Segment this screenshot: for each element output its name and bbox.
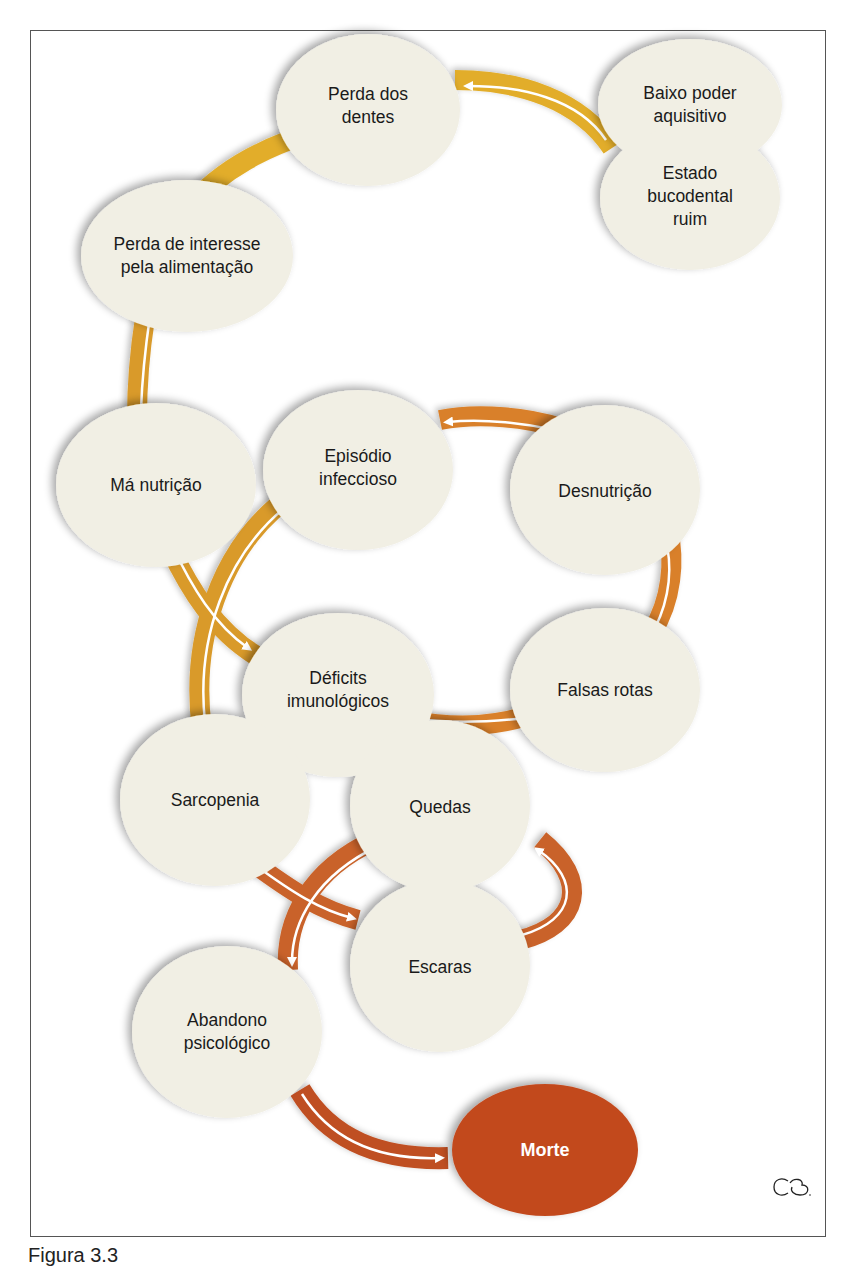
label-perda-dentes: Perda dos dentes [288, 78, 448, 134]
figure-caption: Figura 3.3 [28, 1244, 118, 1267]
label-morte: Morte [465, 1135, 625, 1165]
label-estado-bucodental: Estado bucodental ruim [610, 150, 770, 242]
label-escaras: Escaras [360, 952, 520, 982]
label-baixo-poder: Baixo poder aquisitivo [610, 70, 770, 140]
label-desnutricao: Desnutrição [525, 476, 685, 506]
label-falsas-rotas: Falsas rotas [525, 675, 685, 705]
label-ma-nutricao: Má nutrição [66, 470, 246, 500]
arrow-baixo-poder-to-perda-dentes [455, 80, 612, 148]
label-episodio-infeccioso: Episódio infeccioso [278, 440, 438, 496]
label-quedas: Quedas [360, 792, 520, 822]
signature-mark-icon [770, 1175, 814, 1201]
label-sarcopenia: Sarcopenia [135, 785, 295, 815]
label-abandono-psicologico: Abandono psicológico [147, 1004, 307, 1060]
label-deficits-imunologicos: Déficits imunológicos [258, 662, 418, 718]
label-perda-interesse: Perda de interesse pela alimentação [87, 228, 287, 284]
arrow-abandono-to-morte [300, 1090, 448, 1158]
